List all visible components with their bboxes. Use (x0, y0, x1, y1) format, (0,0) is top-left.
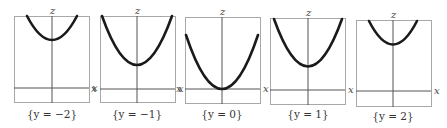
panel-caption: {y = 2} (372, 110, 413, 123)
z-axis-label: z (49, 5, 56, 16)
panel-caption: {y = −2} (27, 108, 77, 121)
panel-frame (357, 21, 432, 107)
z-axis-label: z (390, 9, 397, 20)
panel-y-neg1: z x x {y = −1} (91, 5, 184, 121)
z-axis-label: z (305, 7, 312, 18)
panel-frame (101, 17, 176, 103)
x-axis-label: x (263, 83, 269, 94)
panel-caption: {y = 1} (287, 108, 328, 121)
x-axis-label: x (348, 84, 354, 95)
x-axis-label: x (434, 85, 440, 96)
z-axis-label: z (134, 5, 141, 16)
panel-caption: {y = 0} (201, 108, 242, 121)
panel-y-neg2: z x {y = −2} (14, 5, 98, 121)
x-axis-label: x (91, 83, 97, 94)
x-axis-label: x (176, 83, 182, 94)
z-axis-label: z (219, 6, 226, 17)
trace-diagram: z x {y = −2} z x x {y = −1} z x x {y = 0… (0, 0, 447, 128)
panel-caption: {y = −1} (112, 108, 162, 121)
panel-y-2: z x {y = 2} (356, 9, 440, 123)
panel-y-1: z x {y = 1} (270, 7, 354, 121)
panel-y-0: z x x {y = 0} (176, 6, 269, 121)
